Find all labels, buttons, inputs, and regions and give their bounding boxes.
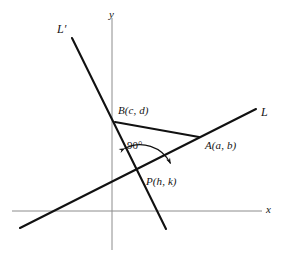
x-axis-label: x: [266, 204, 271, 215]
geometry-figure: B(c, d) A(a, b) P(h, k) L L′ 90° x y: [0, 0, 284, 266]
segment-BA: [115, 122, 199, 137]
line-label-L: L: [261, 106, 268, 118]
angle-label-90: 90°: [127, 140, 142, 151]
y-axis-label: y: [109, 9, 114, 20]
point-label-B: B(c, d): [118, 105, 149, 116]
point-label-A: A(a, b): [205, 140, 236, 151]
line-label-L-prime: L′: [57, 23, 66, 35]
line-L-prime: [72, 38, 166, 229]
point-label-P: P(h, k): [146, 176, 177, 187]
figure-canvas: [0, 0, 284, 266]
